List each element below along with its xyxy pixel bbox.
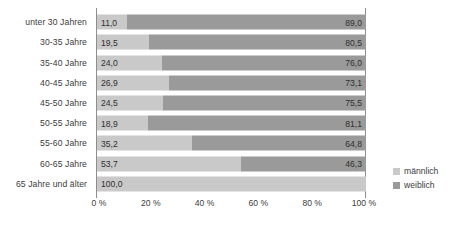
bar-value-label-male: 35,2 xyxy=(101,138,118,148)
bar-row: 24,076,0 xyxy=(97,52,366,72)
bar-value-label-male: 18,9 xyxy=(101,118,118,128)
bar-row: 53,746,3 xyxy=(97,154,366,174)
y-axis-category-label: 60-65 Jahre xyxy=(0,154,92,174)
bar-segment-male: 100,0 xyxy=(97,176,366,191)
x-axis-tick-label: 40 % xyxy=(195,198,215,208)
legend-item[interactable]: weiblich xyxy=(393,180,438,190)
stacked-bar: 24,076,0 xyxy=(97,55,366,70)
x-axis-tick-label: 0 % xyxy=(92,198,107,208)
bar-value-label-female: 73,1 xyxy=(345,78,362,88)
bar-value-label-male: 26,9 xyxy=(101,78,118,88)
bar-segment-female: 75,5 xyxy=(163,95,366,110)
bar-row: 100,0 xyxy=(97,174,366,194)
bar-row: 26,973,1 xyxy=(97,73,366,93)
stacked-bar-chart: unter 30 Jahren30-35 Jahre35-40 Jahre40-… xyxy=(0,0,464,229)
legend-swatch-icon xyxy=(393,168,400,175)
y-axis-category-label: 40-45 Jahre xyxy=(0,73,92,93)
bar-segment-female: 81,1 xyxy=(148,116,366,131)
bar-row: 19,580,5 xyxy=(97,32,366,52)
x-axis-tick-label: 60 % xyxy=(249,198,269,208)
legend-swatch-icon xyxy=(393,182,400,189)
bar-rows: 11,089,019,580,524,076,026,973,124,575,5… xyxy=(97,12,366,194)
bar-value-label-male: 100,0 xyxy=(101,179,123,189)
x-axis-tick-label: 100 % xyxy=(352,198,376,208)
y-axis-category-label: 45-50 Jahre xyxy=(0,93,92,113)
bar-segment-male: 53,7 xyxy=(97,156,241,171)
bar-segment-male: 24,5 xyxy=(97,95,163,110)
y-axis-category-label: 30-35 Jahre xyxy=(0,32,92,52)
bar-segment-female: 64,8 xyxy=(192,136,366,151)
y-axis-category-labels: unter 30 Jahren30-35 Jahre35-40 Jahre40-… xyxy=(0,12,92,194)
bar-segment-male: 26,9 xyxy=(97,75,169,90)
x-axis-tick-label: 80 % xyxy=(302,198,322,208)
bar-value-label-male: 11,0 xyxy=(101,17,117,27)
stacked-bar: 11,089,0 xyxy=(97,15,366,30)
bar-segment-male: 11,0 xyxy=(97,15,127,30)
bar-segment-male: 19,5 xyxy=(97,35,149,50)
bar-value-label-male: 19,5 xyxy=(101,37,118,47)
bar-row: 11,089,0 xyxy=(97,12,366,32)
bar-row: 18,981,1 xyxy=(97,113,366,133)
x-axis-tick-labels: 0 %20 %40 %60 %80 %100 % xyxy=(97,198,366,212)
bar-segment-male: 24,0 xyxy=(97,55,162,70)
bar-segment-male: 35,2 xyxy=(97,136,192,151)
y-axis-category-label: 50-55 Jahre xyxy=(0,113,92,133)
bar-value-label-female: 81,1 xyxy=(345,118,362,128)
bar-segment-male: 18,9 xyxy=(97,116,148,131)
bar-value-label-female: 75,5 xyxy=(345,98,362,108)
stacked-bar: 18,981,1 xyxy=(97,116,366,131)
bar-value-label-male: 24,5 xyxy=(101,98,118,108)
stacked-bar: 53,746,3 xyxy=(97,156,366,171)
stacked-bar: 19,580,5 xyxy=(97,35,366,50)
bar-value-label-female: 80,5 xyxy=(345,37,362,47)
bar-row: 24,575,5 xyxy=(97,93,366,113)
bar-segment-female: 73,1 xyxy=(169,75,366,90)
x-axis-tick-label: 20 % xyxy=(141,198,161,208)
y-axis-category-label: unter 30 Jahren xyxy=(0,12,92,32)
plot-area: 11,089,019,580,524,076,026,973,124,575,5… xyxy=(97,12,366,194)
bar-value-label-male: 53,7 xyxy=(101,159,118,169)
legend-label: männlich xyxy=(404,166,438,176)
bar-segment-female: 89,0 xyxy=(127,15,366,30)
y-axis-category-label: 35-40 Jahre xyxy=(0,52,92,72)
bar-segment-female: 76,0 xyxy=(162,55,366,70)
y-axis-category-label: 65 Jahre und älter xyxy=(0,174,92,194)
bar-segment-female: 80,5 xyxy=(149,35,366,50)
y-axis-category-label: 55-60 Jahre xyxy=(0,133,92,153)
bar-value-label-female: 64,8 xyxy=(345,138,362,148)
bar-value-label-female: 89,0 xyxy=(345,17,362,27)
stacked-bar: 24,575,5 xyxy=(97,95,366,110)
bar-row: 35,264,8 xyxy=(97,133,366,153)
stacked-bar: 100,0 xyxy=(97,176,366,191)
stacked-bar: 35,264,8 xyxy=(97,136,366,151)
stacked-bar: 26,973,1 xyxy=(97,75,366,90)
chart-legend: männlichweiblich xyxy=(393,166,438,190)
bar-value-label-female: 46,3 xyxy=(345,159,362,169)
bar-segment-female: 46,3 xyxy=(241,156,366,171)
bar-value-label-male: 24,0 xyxy=(101,58,118,68)
legend-item[interactable]: männlich xyxy=(393,166,438,176)
legend-label: weiblich xyxy=(404,180,435,190)
bar-value-label-female: 76,0 xyxy=(345,58,362,68)
